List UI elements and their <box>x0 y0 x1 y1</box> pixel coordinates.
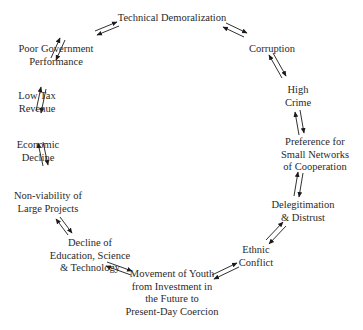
node-corruption: Corruption <box>249 43 295 56</box>
node-text: Decline <box>17 152 60 165</box>
node-technical-demoralization: Technical Demoralization <box>118 12 227 25</box>
node-preference-small-networks: Preference for Small Networks of Coopera… <box>281 136 349 174</box>
node-text: of Cooperation <box>281 161 349 174</box>
node-text: Technical Demoralization <box>118 12 227 25</box>
node-low-tax-revenue: Low Tax Revenue <box>18 90 55 115</box>
arrow-pair-preference-delegitimation <box>294 172 303 197</box>
node-text: Delegitimation <box>272 199 335 212</box>
node-text: High <box>285 84 311 97</box>
node-movement-of-youth: Movement of Youth from Investment in the… <box>125 268 218 318</box>
node-text: Decline of <box>50 237 130 250</box>
arrow-pair-highcrime-preference <box>295 110 304 135</box>
node-text: Revenue <box>18 103 55 116</box>
node-text: Conflict <box>239 257 273 270</box>
node-decline-education: Decline of Education, Science & Technolo… <box>50 237 130 275</box>
arrow-pair-poorgov-techdemo <box>95 22 119 35</box>
arrow-pair-techdemo-corruption <box>223 23 247 37</box>
node-text: Low Tax <box>18 90 55 103</box>
node-text: Present-Day Coercion <box>125 306 218 319</box>
arrow-pair-corruption-highcrime <box>269 53 286 78</box>
node-text: Preference for <box>281 136 349 149</box>
node-text: the Future to <box>125 293 218 306</box>
node-text: from Investment in <box>125 281 218 294</box>
arrow-pair-education-nonviability <box>56 217 72 235</box>
node-text: Large Projects <box>14 203 82 216</box>
node-poor-government-performance: Poor Government Performance <box>19 43 94 68</box>
node-text: & Technology <box>50 262 130 275</box>
node-high-crime: High Crime <box>285 84 311 109</box>
node-text: Non-viability of <box>14 190 82 203</box>
node-text: Movement of Youth <box>125 268 218 281</box>
node-delegitimation-distrust: Delegitimation & Distrust <box>272 199 335 224</box>
node-text: Ethnic <box>239 244 273 257</box>
node-text: Corruption <box>249 43 295 56</box>
node-economic-decline: Economic Decline <box>17 139 60 164</box>
node-text: Small Networks <box>281 149 349 162</box>
node-text: Poor Government <box>19 43 94 56</box>
node-text: & Distrust <box>272 212 335 225</box>
node-text: Economic <box>17 139 60 152</box>
node-ethnic-conflict: Ethnic Conflict <box>239 244 273 269</box>
arrow-pair-delegitimation-ethnic <box>266 222 286 244</box>
node-text: Education, Science <box>50 250 130 263</box>
node-text: Performance <box>19 56 94 69</box>
node-text: Crime <box>285 97 311 110</box>
node-non-viability: Non-viability of Large Projects <box>14 190 82 215</box>
